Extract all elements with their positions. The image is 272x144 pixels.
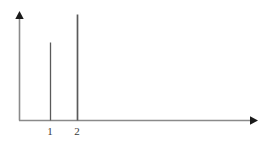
stem-plot-figure: 1 2 (0, 0, 272, 144)
plot-canvas (0, 0, 272, 144)
x-tick-label-2: 2 (69, 126, 85, 137)
y-axis-arrow-icon (15, 11, 23, 19)
x-axis-arrow-icon (250, 116, 258, 125)
x-tick-label-1: 1 (42, 126, 58, 137)
